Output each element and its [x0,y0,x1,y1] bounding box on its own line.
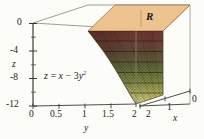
region-R-plane [88,5,190,31]
y-tick-0p5: 0.5 [50,110,62,120]
y-tick-2: 2 [132,110,137,120]
z-tick-minus12: -12 [6,100,19,110]
surface-equation: z = x − 3y2 [44,70,86,81]
z-tick-minus8: -8 [10,73,18,83]
equation-exponent: 2 [83,69,86,76]
y-axis [33,102,136,110]
x-tick-1: 1 [167,103,172,113]
y-tick-0: 0 [29,110,34,120]
surface-z-equals-x-minus-3y2 [80,25,175,115]
equation-equals: = [48,70,59,81]
x-tick-0: 0 [192,95,197,105]
z-axis-label: z [12,60,16,70]
x-tick-2: 2 [146,110,151,120]
z-tick-minus4: -4 [10,46,18,56]
y-axis-label: y [84,124,88,134]
surface-plot-figure: 0 -4 -8 -12 z 0 0.5 1 1.5 2 y 2 1 0 x R … [0,0,204,139]
z-tick-0: 0 [17,18,22,28]
x-axis-label: x [173,114,177,124]
z-axis [29,23,37,106]
region-R-label: R [146,11,153,22]
y-tick-1: 1 [82,110,87,120]
equation-minus: − [63,70,74,81]
y-tick-1p5: 1.5 [102,110,114,120]
